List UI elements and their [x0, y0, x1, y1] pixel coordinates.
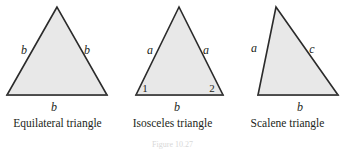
- caption-scalene: Scalene triangle: [230, 117, 345, 130]
- isosceles-angle-label-2: 2: [209, 82, 215, 94]
- triangle-isosceles: a a b 1 2: [135, 7, 224, 114]
- scalene-side-label-hyp: c: [309, 42, 315, 56]
- isosceles-angle-label-1: 1: [142, 82, 148, 94]
- scalene-triangle-shape: [258, 7, 338, 95]
- equilateral-side-label-base: b: [51, 100, 57, 114]
- equilateral-side-label-left: b: [21, 43, 27, 57]
- isosceles-side-label-base: b: [174, 100, 180, 114]
- triangle-scalene: a c b: [251, 7, 339, 114]
- geometry-figure: b b b a a b 1 2 a c b Equilateral triang…: [0, 0, 345, 151]
- caption-isosceles: Isosceles triangle: [115, 117, 230, 130]
- isosceles-side-label-right: a: [203, 43, 209, 57]
- isosceles-side-label-left: a: [147, 43, 153, 57]
- caption-equilateral: Equilateral triangle: [0, 117, 115, 130]
- scalene-side-label-left: a: [251, 41, 257, 55]
- figure-number-caption: Figure 10.27: [0, 140, 345, 149]
- scalene-side-label-base: b: [297, 100, 303, 114]
- equilateral-side-label-right: b: [84, 43, 90, 57]
- triangle-equilateral: b b b: [6, 7, 108, 114]
